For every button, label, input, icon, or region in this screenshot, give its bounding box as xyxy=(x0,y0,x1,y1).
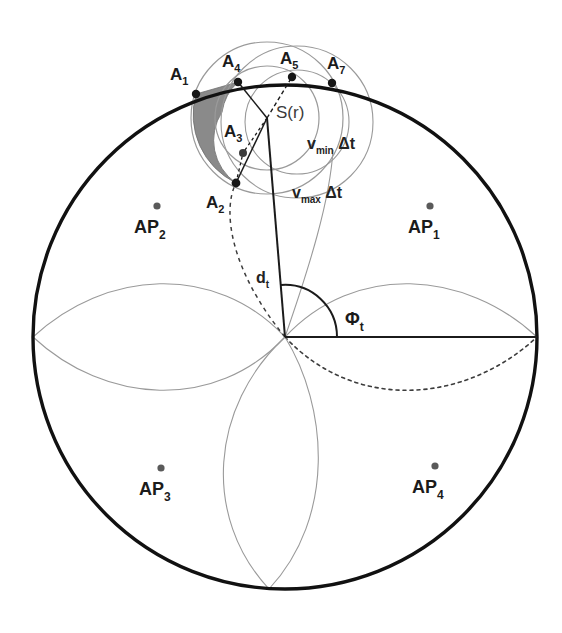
rose-petal-right-lower-dashed xyxy=(285,337,537,390)
point-A1[interactable] xyxy=(192,90,200,98)
label-A5: A5 xyxy=(280,49,298,71)
label-AP4: AP4 xyxy=(412,477,444,502)
label-A1: A1 xyxy=(170,65,188,87)
label-AP2: AP2 xyxy=(134,217,166,242)
ap-dot-AP4[interactable] xyxy=(431,462,438,469)
source-label: S(r) xyxy=(276,103,304,122)
rose-petal-right-upper xyxy=(285,284,537,337)
rose-petal-top-right xyxy=(285,150,333,337)
label-AP1: AP1 xyxy=(408,217,440,242)
access-points-group: AP1 AP2 AP3 AP4 xyxy=(134,202,444,504)
annotation-labels-group: vmin Δt vmax Δt dt Φt xyxy=(256,135,364,334)
label-v-max-delta-t: vmax Δt xyxy=(292,184,343,205)
label-A3: A3 xyxy=(224,122,242,144)
label-A4: A4 xyxy=(222,52,241,74)
label-A7: A7 xyxy=(327,54,345,76)
rose-petals-group xyxy=(33,150,537,589)
point-A5[interactable] xyxy=(288,73,296,81)
point-A2[interactable] xyxy=(232,179,241,188)
ap-dot-AP2[interactable] xyxy=(153,202,160,209)
label-A2: A2 xyxy=(206,193,224,215)
label-angle-phi-t: Φt xyxy=(345,309,364,334)
ap-dot-AP1[interactable] xyxy=(426,202,433,209)
rose-petal-top-dashed xyxy=(230,183,285,337)
point-A7[interactable] xyxy=(328,79,336,87)
rose-petal-left xyxy=(33,284,285,391)
label-v-min-delta-t: vmin Δt xyxy=(307,135,356,156)
angle-arc-phi xyxy=(281,285,337,337)
distance-vector-dt xyxy=(267,118,285,337)
point-A3[interactable] xyxy=(239,149,247,157)
localization-diagram: A1 A4 A5 A7 A3 A2 S(r) xyxy=(0,0,562,633)
ap-dot-AP3[interactable] xyxy=(157,464,164,471)
point-A4[interactable] xyxy=(234,78,242,86)
label-AP3: AP3 xyxy=(139,479,171,504)
figure-root: A1 A4 A5 A7 A3 A2 S(r) xyxy=(0,0,562,633)
rose-petal-bottom xyxy=(223,337,318,589)
label-distance-dt: dt xyxy=(256,269,270,290)
